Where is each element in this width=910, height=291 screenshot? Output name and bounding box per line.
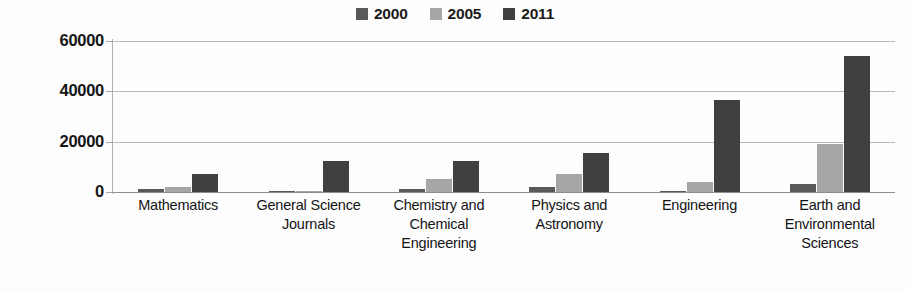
- bar-2005: [556, 174, 582, 192]
- bar-chart: 200020052011 6000040000200000 Mathematic…: [0, 0, 910, 291]
- x-axis-category-label: Physics andAstronomy: [504, 196, 634, 234]
- legend-entry-2005[interactable]: 2005: [430, 6, 482, 22]
- x-axis-category-label: Earth andEnvironmentalSciences: [765, 196, 895, 253]
- y-axis-tick-mark: [106, 192, 113, 193]
- x-axis-category-label: Mathematics: [113, 196, 243, 215]
- bar-group: [660, 41, 740, 192]
- y-axis-tick-mark: [106, 41, 113, 42]
- y-axis-tick-label: 0: [4, 183, 104, 200]
- bar-2005: [687, 182, 713, 192]
- x-axis-category-label: General ScienceJournals: [243, 196, 373, 234]
- y-axis-tick-label: 20000: [4, 133, 104, 150]
- x-axis-category-label: Chemistry andChemicalEngineering: [374, 196, 504, 253]
- y-axis-tick-label: 40000: [4, 82, 104, 99]
- bar-2011: [714, 100, 740, 192]
- gridline: [113, 91, 895, 92]
- x-axis-label-line: Mathematics: [113, 196, 243, 215]
- bar-2005: [817, 144, 843, 192]
- legend-label: 2000: [374, 6, 408, 22]
- x-axis-label-line: Chemical: [374, 215, 504, 234]
- bar-2011: [583, 153, 609, 192]
- legend-swatch-icon-2011: [503, 8, 515, 20]
- bar-2011: [844, 56, 870, 192]
- x-axis-category-label: Engineering: [634, 196, 764, 215]
- bar-group: [399, 41, 479, 192]
- chart-legend: 200020052011: [0, 4, 910, 24]
- y-axis-labels: 6000040000200000: [0, 0, 104, 291]
- plot-area: [113, 41, 895, 192]
- gridline: [113, 142, 895, 143]
- x-axis-labels: MathematicsGeneral ScienceJournalsChemis…: [113, 196, 895, 291]
- bar-2000: [790, 184, 816, 192]
- y-axis-tick-mark: [106, 91, 113, 92]
- x-axis-label-line: Astronomy: [504, 215, 634, 234]
- x-axis-label-line: Chemistry and: [374, 196, 504, 215]
- bar-group: [529, 41, 609, 192]
- bar-2005: [426, 179, 452, 192]
- bar-group: [269, 41, 349, 192]
- x-axis-label-line: Journals: [243, 215, 373, 234]
- legend-entry-2000[interactable]: 2000: [356, 6, 408, 22]
- bar-group: [790, 41, 870, 192]
- y-axis-tick-mark: [106, 142, 113, 143]
- y-axis-tick-label: 60000: [4, 32, 104, 49]
- gridline: [113, 41, 895, 42]
- bar-2011: [323, 161, 349, 192]
- legend-label: 2011: [521, 6, 554, 22]
- x-axis-label-line: Sciences: [765, 234, 895, 253]
- bar-group: [138, 41, 218, 192]
- x-axis-label-line: Engineering: [374, 234, 504, 253]
- legend-swatch-icon-2000: [356, 8, 368, 20]
- legend-entry-2011[interactable]: 2011: [503, 6, 554, 22]
- x-axis-label-line: General Science: [243, 196, 373, 215]
- bar-2011: [192, 174, 218, 192]
- legend-swatch-icon-2005: [430, 8, 442, 20]
- x-axis-line: [113, 192, 895, 193]
- legend-label: 2005: [448, 6, 482, 22]
- bar-2011: [453, 161, 479, 192]
- x-axis-label-line: Engineering: [634, 196, 764, 215]
- x-axis-label-line: Environmental: [765, 215, 895, 234]
- x-axis-label-line: Physics and: [504, 196, 634, 215]
- x-axis-label-line: Earth and: [765, 196, 895, 215]
